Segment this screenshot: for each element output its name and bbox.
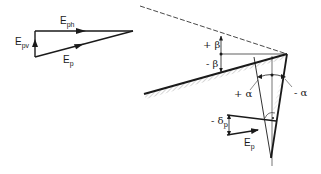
eph-label: Eph	[60, 15, 75, 29]
epv-arrow-icon	[32, 39, 38, 47]
earth-pressure-diagram: Eph Epv Ep + β - β + α - α	[0, 0, 321, 174]
ep-arrow-icon	[74, 44, 84, 50]
minus-alpha-label: - α	[294, 87, 308, 98]
ep-force-arrow	[227, 130, 258, 135]
force-triangle: Eph Epv Ep	[15, 15, 133, 68]
wall-normal-line	[227, 115, 276, 121]
delta-p-label: - δp	[211, 115, 229, 129]
wall-back-line	[271, 54, 287, 158]
beta-pivot-dot	[220, 53, 223, 56]
minus-alpha-leader	[285, 79, 292, 87]
plus-alpha-label: + α	[234, 88, 253, 99]
wall-geometry: + β - β + α - α - δp Ep	[140, 6, 308, 166]
alpha-pivot-dot	[271, 74, 274, 77]
minus-beta-label: - β	[206, 58, 219, 69]
right-angle-dot	[272, 117, 274, 119]
eph-arrow-icon	[76, 28, 86, 34]
ep-force-label: Ep	[244, 137, 255, 151]
ep-vector	[35, 31, 133, 57]
epv-label: Epv	[15, 36, 30, 50]
plus-beta-label: + β	[203, 39, 221, 50]
ep-label: Ep	[63, 54, 74, 68]
alpha-positive-line	[254, 57, 271, 158]
